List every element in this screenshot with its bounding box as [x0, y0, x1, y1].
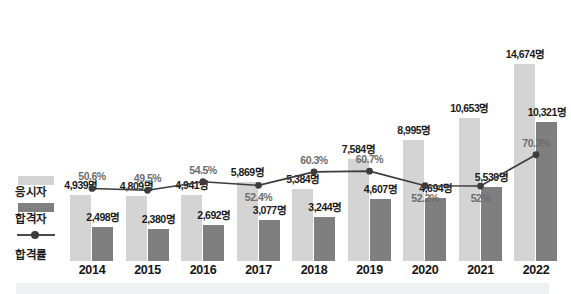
bar-group-2015: 4,809명2,380명 — [124, 8, 172, 261]
bar-label-applicants-2015: 4,809명 — [105, 178, 169, 193]
x-tick-2016: 2016 — [179, 263, 227, 277]
bar-label-applicants-2017: 5,869명 — [216, 164, 280, 179]
legend-item-rate: 합격률 — [14, 230, 70, 263]
bar-passers-2020 — [425, 198, 446, 261]
bar-group-2017: 5,869명3,077명 — [235, 8, 283, 261]
x-tick-2022: 2022 — [512, 263, 560, 277]
bar-applicants-2017 — [237, 182, 258, 261]
bar-label-passers-2022: 10,321명 — [515, 104, 571, 119]
bar-passers-2015 — [148, 229, 169, 261]
x-tick-2017: 2017 — [235, 263, 283, 277]
bar-passers-2021 — [481, 187, 502, 261]
legend-label-rate: 합격률 — [14, 248, 70, 263]
x-tick-2021: 2021 — [457, 263, 505, 277]
bar-label-applicants-2021: 10,653명 — [438, 100, 502, 115]
bar-passers-2014 — [92, 227, 113, 261]
bar-passers-2016 — [203, 225, 224, 261]
bar-applicants-2014 — [70, 195, 91, 261]
x-tick-2019: 2019 — [346, 263, 394, 277]
bar-applicants-2016 — [181, 195, 202, 261]
bar-applicants-2021 — [459, 118, 480, 261]
bar-passers-2022 — [536, 122, 557, 261]
bar-passers-2018 — [314, 217, 335, 261]
legend-swatch-passers-icon — [18, 203, 54, 212]
bar-passers-2017 — [259, 220, 280, 261]
bar-label-applicants-2016: 4,941명 — [160, 177, 224, 192]
bar-group-2016: 4,941명2,692명 — [179, 8, 227, 261]
bar-applicants-2020 — [403, 140, 424, 261]
bottom-band — [16, 283, 549, 294]
x-tick-2018: 2018 — [290, 263, 338, 277]
bar-group-2022: 14,674명10,321명 — [512, 8, 560, 261]
x-axis-labels: 201420152016201720182019202020212022 — [68, 263, 560, 283]
bar-label-applicants-2018: 5,384명 — [271, 171, 335, 186]
legend-label-passers: 합격자 — [14, 212, 70, 227]
bar-applicants-2022 — [514, 64, 535, 261]
bar-group-2014: 4,939명2,498명 — [68, 8, 116, 261]
bar-applicants-2019 — [348, 159, 369, 261]
bar-applicants-2015 — [126, 196, 147, 261]
bar-label-applicants-2022: 14,674명 — [493, 46, 557, 61]
bar-group-2020: 8,995명4,694명 — [401, 8, 449, 261]
x-tick-2015: 2015 — [124, 263, 172, 277]
legend-item-passers: 합격자 — [14, 203, 70, 227]
bar-label-applicants-2019: 7,584명 — [327, 141, 391, 156]
bar-passers-2019 — [370, 199, 391, 261]
x-tick-2014: 2014 — [68, 263, 116, 277]
bar-label-applicants-2020: 8,995명 — [382, 122, 446, 137]
plot-area: 4,939명2,498명4,809명2,380명4,941명2,692명5,86… — [68, 8, 560, 261]
bar-group-2018: 5,384명3,244명 — [290, 8, 338, 261]
x-tick-2020: 2020 — [401, 263, 449, 277]
bar-label-applicants-2014: 4,939명 — [49, 177, 113, 192]
